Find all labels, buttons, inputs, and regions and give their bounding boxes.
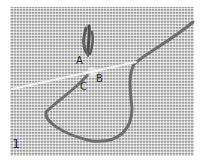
yarn-loop <box>46 22 193 141</box>
yarn-tuft <box>83 26 93 56</box>
label-b: B <box>96 74 103 84</box>
needle <box>12 62 136 89</box>
label-a: A <box>76 56 83 66</box>
label-c: C <box>80 82 87 92</box>
figure-number: 1 <box>12 137 20 150</box>
